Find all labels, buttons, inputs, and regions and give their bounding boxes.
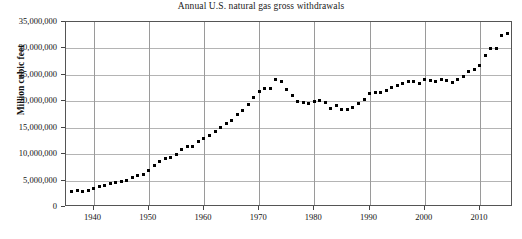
data-point <box>258 90 261 93</box>
plot-area <box>65 21 512 206</box>
data-point <box>285 88 288 91</box>
data-point <box>335 104 338 107</box>
data-point <box>418 82 421 85</box>
data-point <box>340 108 343 111</box>
data-point <box>70 190 73 193</box>
data-point <box>390 86 393 89</box>
data-point <box>191 145 194 148</box>
data-point <box>368 92 371 95</box>
data-point <box>236 113 239 116</box>
data-point <box>484 54 487 57</box>
data-point <box>346 108 349 111</box>
data-point <box>396 84 399 87</box>
data-point <box>456 78 459 81</box>
data-point <box>329 107 332 110</box>
data-point <box>318 99 321 102</box>
data-point <box>92 187 95 190</box>
data-point <box>379 91 382 94</box>
data-point <box>114 181 117 184</box>
data-point <box>506 32 509 35</box>
data-point <box>429 79 432 82</box>
data-point <box>175 153 178 156</box>
data-point <box>208 134 211 137</box>
data-point <box>131 176 134 179</box>
data-point <box>462 75 465 78</box>
data-point <box>197 140 200 143</box>
x-tick-label: 1980 <box>293 212 333 222</box>
data-point <box>109 182 112 185</box>
data-point <box>87 189 90 192</box>
x-tick-label: 2010 <box>459 212 499 222</box>
data-point <box>103 184 106 187</box>
x-tick-label: 2000 <box>404 212 444 222</box>
data-point <box>500 34 503 37</box>
data-point <box>313 100 316 103</box>
data-point <box>478 64 481 67</box>
x-tick-mark <box>203 206 204 210</box>
data-point <box>225 122 228 125</box>
data-point <box>263 87 266 90</box>
x-tick-mark <box>258 206 259 210</box>
data-point <box>385 89 388 92</box>
data-point <box>434 80 437 83</box>
data-point <box>241 109 244 112</box>
data-point <box>120 180 123 183</box>
x-tick-label: 1950 <box>128 212 168 222</box>
data-point <box>307 102 310 105</box>
data-point <box>296 100 299 103</box>
data-point <box>363 98 366 101</box>
data-point <box>440 78 443 81</box>
data-point <box>489 47 492 50</box>
x-tick-mark <box>479 206 480 210</box>
x-tick-mark <box>93 206 94 210</box>
data-point <box>357 102 360 105</box>
data-point <box>407 80 410 83</box>
data-point <box>180 148 183 151</box>
data-point <box>291 94 294 97</box>
x-tick-label: 1990 <box>349 212 389 222</box>
data-point <box>147 169 150 172</box>
data-point <box>98 185 101 188</box>
data-point <box>169 156 172 159</box>
data-point <box>280 80 283 83</box>
data-point <box>302 101 305 104</box>
x-tick-mark <box>424 206 425 210</box>
data-point <box>142 173 145 176</box>
data-point <box>374 91 377 94</box>
x-tick-mark <box>369 206 370 210</box>
data-point <box>467 70 470 73</box>
x-tick-mark <box>313 206 314 210</box>
data-point <box>153 164 156 167</box>
data-point <box>252 96 255 99</box>
data-point <box>81 190 84 193</box>
data-point <box>214 130 217 133</box>
data-point <box>202 137 205 140</box>
x-tick-label: 1940 <box>73 212 113 222</box>
data-point <box>495 47 498 50</box>
data-point <box>445 79 448 82</box>
data-point <box>412 80 415 83</box>
data-point <box>274 78 277 81</box>
data-point <box>351 106 354 109</box>
x-tick-label: 1960 <box>183 212 223 222</box>
data-point <box>451 81 454 84</box>
data-point <box>401 82 404 85</box>
chart-container: Annual U.S. natural gas gross withdrawal… <box>0 0 522 239</box>
data-point <box>247 103 250 106</box>
data-point <box>158 160 161 163</box>
data-points-layer <box>66 22 511 205</box>
data-point <box>324 101 327 104</box>
data-point <box>219 126 222 129</box>
data-point <box>186 145 189 148</box>
data-point <box>230 119 233 122</box>
data-point <box>423 78 426 81</box>
data-point <box>269 87 272 90</box>
data-point <box>76 189 79 192</box>
data-point <box>473 68 476 71</box>
x-tick-label: 1970 <box>238 212 278 222</box>
data-point <box>125 179 128 182</box>
x-tick-mark <box>148 206 149 210</box>
data-point <box>164 157 167 160</box>
data-point <box>136 174 139 177</box>
